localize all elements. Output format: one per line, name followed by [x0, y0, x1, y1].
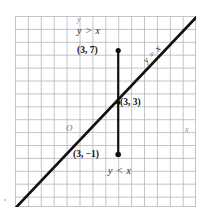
origin-label: O [66, 124, 73, 133]
x-axis-label: x [185, 126, 189, 134]
figure-canvas: y x O y > x y < x y = x (3, 7) (3, 3) (3… [0, 0, 210, 222]
region-label-below: y < x [108, 166, 132, 176]
point-marker-3-7 [116, 48, 121, 53]
line-y-equals-x [17, 18, 197, 208]
print-speck [4, 199, 6, 201]
graph-curves [15, 16, 196, 207]
point-label-3-7: (3, 7) [77, 46, 98, 56]
y-axis-label: y [77, 16, 81, 24]
coordinate-plane: y x O y > x y < x y = x (3, 7) (3, 3) (3… [15, 16, 196, 207]
region-label-above: y > x [77, 26, 101, 36]
point-label-3-neg1: (3, −1) [73, 150, 99, 160]
point-label-3-3: (3, 3) [120, 98, 141, 108]
point-marker-3-neg1 [115, 152, 121, 158]
